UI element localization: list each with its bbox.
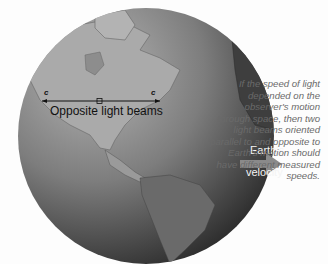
opposite-light-beams-label: Opposite light beams <box>50 104 163 118</box>
figure-caption: If the speed of light depended on the ob… <box>210 78 320 182</box>
light-speed-label-right: c <box>151 88 155 97</box>
diagram-stage: c c Opposite light beams Earth's velocit… <box>0 0 328 264</box>
light-speed-label-left: c <box>44 88 48 97</box>
